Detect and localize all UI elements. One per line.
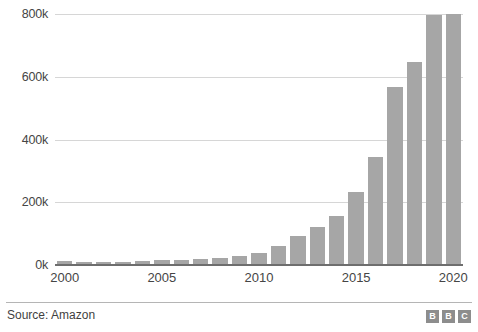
- bar-2006: [174, 260, 190, 264]
- bar-2008: [212, 258, 228, 264]
- bar-2018: [407, 62, 423, 264]
- bar-2001: [76, 262, 92, 264]
- x-tick-label: 2015: [342, 270, 371, 285]
- x-tick-label: 2005: [147, 270, 176, 285]
- footer-divider: [6, 302, 472, 303]
- y-tick-label: 0k: [35, 258, 48, 272]
- bar-2013: [310, 227, 326, 264]
- bar-2004: [135, 261, 151, 264]
- x-axis: 20002005201020152020: [55, 268, 463, 294]
- bar-2003: [115, 262, 131, 264]
- x-tick-label: 2020: [439, 270, 468, 285]
- y-tick-label: 800k: [22, 7, 48, 21]
- bar-2005: [154, 260, 170, 264]
- bar-2015: [348, 192, 364, 264]
- y-tick-label: 200k: [22, 195, 48, 209]
- plot-area: [55, 14, 463, 265]
- bar-2019: [426, 15, 442, 264]
- source-label: Source: Amazon: [7, 308, 95, 322]
- bar-series: [55, 14, 463, 265]
- bbc-logo: B B C: [426, 310, 471, 323]
- bar-2011: [271, 246, 287, 264]
- bar-2010: [251, 253, 267, 264]
- bar-chart: 800k 600k 400k 200k 0k 20002005201020152…: [0, 0, 478, 332]
- bar-2014: [329, 216, 345, 264]
- bar-2016: [368, 157, 384, 264]
- y-tick-label: 400k: [22, 133, 48, 147]
- bar-2009: [232, 256, 248, 264]
- bar-2017: [387, 87, 403, 264]
- bar-2000: [57, 261, 73, 264]
- y-tick-label: 600k: [22, 70, 48, 84]
- bar-2007: [193, 259, 209, 264]
- x-tick-label: 2000: [50, 270, 79, 285]
- bar-2002: [96, 262, 112, 264]
- bbc-logo-letter: B: [426, 310, 439, 323]
- x-tick-label: 2010: [245, 270, 274, 285]
- y-axis: 800k 600k 400k 200k 0k: [0, 0, 55, 332]
- bbc-logo-letter: B: [442, 310, 455, 323]
- bbc-logo-letter: C: [458, 310, 471, 323]
- bar-2012: [290, 236, 306, 264]
- bar-2020: [446, 14, 462, 264]
